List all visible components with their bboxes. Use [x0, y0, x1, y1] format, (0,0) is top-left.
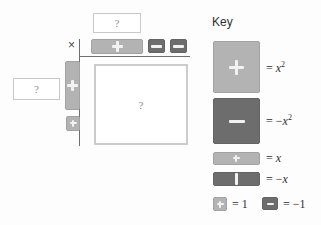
key-label-unit-positive: = 1: [232, 197, 248, 212]
equals-sign: =: [283, 197, 290, 211]
plus-icon: [217, 201, 224, 208]
minus-icon: [151, 45, 162, 48]
unit-value-negative-one: −1: [293, 197, 306, 211]
minus-icon: [229, 120, 245, 123]
key-label-unit-negative: = −1: [283, 197, 306, 212]
minus-icon: [173, 45, 184, 48]
top-factor-question-box[interactable]: ?: [93, 13, 141, 33]
key-label-x-squared-positive: = x2: [266, 60, 285, 76]
product-area-question-box[interactable]: ?: [94, 64, 188, 145]
key-label-x-squared-negative: = −x2: [266, 113, 292, 129]
equals-sign: =: [266, 151, 273, 165]
algebra-tiles-diagram: ? × ? ? Key = x2 = −x2: [0, 0, 321, 225]
exponent-2: 2: [288, 113, 292, 122]
minus-icon: [267, 203, 274, 205]
product-value: ?: [139, 99, 144, 111]
plus-icon: [229, 60, 244, 75]
key-tile-x-negative: [213, 172, 260, 186]
plus-icon: [67, 80, 78, 91]
plus-icon: [112, 41, 123, 52]
key-tile-unit-negative: [262, 197, 278, 210]
key-label-x-negative: = −x: [266, 172, 288, 187]
plus-icon: [70, 120, 77, 127]
vertical-bar-icon: [235, 173, 238, 185]
left-factor-value: ?: [34, 83, 39, 95]
horizontal-divider-line: [79, 56, 190, 57]
equals-sign: =: [266, 172, 273, 186]
left-factor-question-box[interactable]: ?: [13, 78, 60, 100]
left-column-unit-tile[interactable]: [66, 116, 80, 131]
exponent-2: 2: [281, 60, 285, 69]
key-label-x-positive: = x: [266, 151, 281, 166]
plus-icon: [233, 155, 240, 162]
multiplication-symbol: ×: [68, 38, 75, 52]
variable-x: x: [276, 151, 281, 165]
key-tile-x-squared-negative: [213, 98, 260, 144]
equals-sign: =: [266, 114, 273, 128]
equals-sign: =: [266, 61, 273, 75]
key-tile-x-squared-positive: [213, 41, 260, 93]
variable-x: x: [283, 172, 288, 186]
key-title: Key: [212, 15, 233, 29]
top-row-unit-tile-1[interactable]: [148, 39, 165, 53]
top-factor-value: ?: [115, 17, 120, 29]
top-row-x-tile[interactable]: [91, 39, 143, 54]
left-column-x-tile[interactable]: [65, 61, 80, 110]
equals-sign: =: [232, 197, 239, 211]
minus-sign: −: [276, 114, 283, 128]
key-tile-x-positive: [213, 152, 260, 165]
unit-value-one: 1: [242, 197, 248, 211]
key-tile-unit-positive: [213, 197, 227, 211]
minus-sign: −: [276, 172, 283, 186]
top-row-unit-tile-2[interactable]: [170, 39, 187, 53]
